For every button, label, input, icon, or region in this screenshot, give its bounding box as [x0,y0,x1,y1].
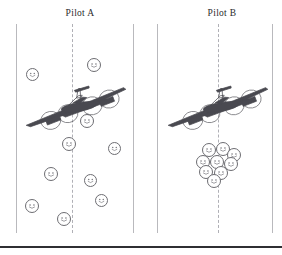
smiley-face-icon [207,174,221,188]
panel-right-rail-pilot-b [272,24,273,233]
smiley-face-icon [84,174,97,187]
panel-left-rail-pilot-b [157,24,158,233]
smiley-face-icon [44,167,58,181]
bomber-aircraft-icon [19,77,136,136]
bomber-formation-figure: Pilot A Pilot B [0,0,282,255]
bottom-rule [0,246,282,248]
smiley-face-icon [25,199,39,213]
panel-right-rail-pilot-a [133,24,134,233]
panel-title-pilot-a: Pilot A [40,8,120,18]
smiley-face-icon [62,137,76,151]
panel-title-pilot-b: Pilot B [182,8,262,18]
smiley-face-icon [108,142,121,155]
smiley-face-icon [87,58,101,72]
panel-left-rail-pilot-a [16,24,17,233]
bomber-aircraft-icon [161,77,278,136]
smiley-face-icon [95,194,108,207]
smiley-face-icon [57,212,71,226]
smiley-face-icon [26,68,39,81]
